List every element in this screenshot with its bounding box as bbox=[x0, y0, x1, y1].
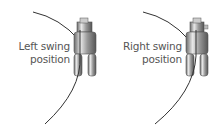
label-line-2: position bbox=[4, 53, 70, 66]
right-swing-panel: Right swing position bbox=[110, 0, 220, 138]
left-swing-panel: Left swing position bbox=[0, 0, 110, 138]
presser-foot-left-illustration bbox=[0, 0, 110, 138]
presser-foot-right-illustration bbox=[110, 0, 220, 138]
label-line-1: Left swing bbox=[4, 40, 70, 53]
label-line-2: position bbox=[112, 53, 182, 66]
label-line-1: Right swing bbox=[112, 40, 182, 53]
left-swing-label: Left swing position bbox=[4, 40, 70, 66]
right-swing-label: Right swing position bbox=[112, 40, 182, 66]
